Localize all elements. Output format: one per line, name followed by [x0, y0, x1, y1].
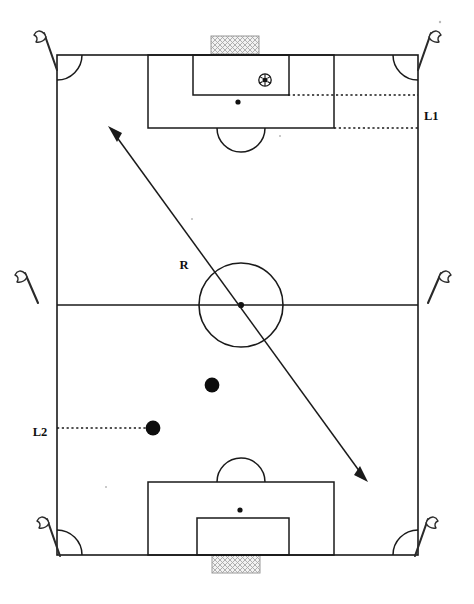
penalty-arc-bottom [217, 458, 265, 482]
corner-arc-top-right [393, 55, 418, 80]
goal-area-bottom [197, 518, 289, 555]
goal-area-top [193, 55, 289, 95]
soccer-pitch-diagram: L1 L2 R [0, 0, 474, 604]
soccer-ball-icon [259, 74, 271, 86]
scan-speck-3 [279, 135, 281, 137]
penalty-spot-top [235, 99, 240, 104]
corner-arc-bottom-left [57, 530, 82, 555]
label-l1: L1 [424, 109, 439, 123]
scan-speck-1 [439, 21, 441, 23]
corner-arc-top-left [57, 55, 82, 80]
scan-speck-2 [191, 218, 193, 220]
penalty-area-top [148, 55, 334, 128]
corner-arc-bottom-right [393, 530, 418, 555]
player-dot-2 [146, 421, 161, 436]
corner-flag-top-left [34, 31, 57, 70]
halfway-flag-left [15, 271, 38, 303]
goal-net-bottom [212, 555, 260, 573]
label-r: R [179, 258, 189, 272]
player-dot-1 [205, 378, 220, 393]
arrow-head-top-left [108, 126, 122, 142]
arrow-head-bottom-right [354, 466, 368, 482]
corner-flag-top-right [418, 31, 441, 70]
scan-speck-4 [105, 486, 107, 488]
goal-net-top [211, 36, 259, 54]
label-l2: L2 [33, 425, 48, 439]
penalty-arc-top [217, 128, 265, 152]
halfway-flag-right [428, 271, 451, 303]
penalty-spot-bottom [237, 507, 242, 512]
